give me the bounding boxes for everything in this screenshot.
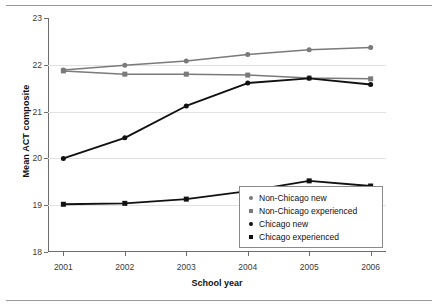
data-point — [184, 197, 189, 202]
page-rule-top — [6, 5, 432, 6]
y-tick-label: 23 — [22, 14, 42, 23]
legend-marker-swatch — [249, 235, 253, 239]
data-point — [368, 76, 373, 81]
x-tick-label: 2003 — [166, 263, 206, 272]
legend-marker-swatch — [249, 196, 253, 200]
act-composite-line-chart: Mean ACT composite 181920212223 20012002… — [0, 8, 438, 300]
data-point — [122, 72, 127, 77]
x-tick-mark — [309, 252, 310, 256]
data-point — [245, 73, 250, 78]
x-tick-mark — [125, 252, 126, 256]
page-rule-bottom — [6, 300, 432, 301]
data-point — [184, 72, 189, 77]
x-tick-label: 2002 — [105, 263, 145, 272]
data-point — [184, 59, 189, 64]
legend-label: Non-Chicago experienced — [257, 206, 357, 216]
legend-item: Non-Chicago experienced — [245, 204, 377, 217]
data-point — [61, 202, 66, 207]
legend-marker-swatch — [249, 222, 253, 226]
series-non-chicago-new — [61, 45, 373, 72]
legend-label: Chicago new — [257, 219, 308, 229]
legend-item: Chicago new — [245, 217, 377, 230]
y-tick-label: 22 — [22, 61, 42, 70]
legend-marker-swatch — [249, 209, 253, 213]
data-point — [368, 45, 373, 50]
legend-label: Chicago experienced — [257, 232, 339, 242]
legend-square-icon — [245, 235, 257, 239]
x-tick-mark — [248, 252, 249, 256]
y-tick-label: 19 — [22, 201, 42, 210]
chart-legend: Non-Chicago newNon-Chicago experiencedCh… — [239, 186, 383, 248]
series-line — [63, 78, 370, 158]
x-tick-label: 2001 — [43, 263, 83, 272]
legend-circle-icon — [245, 196, 257, 200]
legend-label: Non-Chicago new — [257, 193, 327, 203]
data-point — [245, 81, 250, 86]
legend-item: Chicago experienced — [245, 230, 377, 243]
data-point — [122, 63, 127, 68]
x-tick-mark — [186, 252, 187, 256]
data-point — [122, 201, 127, 206]
data-point — [307, 178, 312, 183]
data-point — [61, 156, 66, 161]
y-tick-label: 21 — [22, 108, 42, 117]
data-point — [61, 68, 66, 73]
y-tick-label: 20 — [22, 154, 42, 163]
x-tick-label: 2006 — [351, 263, 391, 272]
x-axis-title: School year — [48, 278, 386, 288]
data-point — [184, 103, 189, 108]
series-line — [63, 47, 370, 69]
legend-square-icon — [245, 209, 257, 213]
data-point — [307, 76, 312, 81]
data-point — [307, 47, 312, 52]
series-line — [63, 71, 370, 79]
x-tick-label: 2004 — [228, 263, 268, 272]
x-tick-label: 2005 — [289, 263, 329, 272]
x-tick-mark — [371, 252, 372, 256]
series-chicago-new — [61, 76, 373, 161]
y-axis-title: Mean ACT composite — [21, 51, 31, 211]
y-tick-label: 18 — [22, 248, 42, 257]
x-tick-mark — [63, 252, 64, 256]
legend-item: Non-Chicago new — [245, 191, 377, 204]
y-tick-mark — [44, 252, 48, 253]
data-point — [245, 52, 250, 57]
data-point — [122, 135, 127, 140]
legend-circle-icon — [245, 222, 257, 226]
data-point — [368, 82, 373, 87]
